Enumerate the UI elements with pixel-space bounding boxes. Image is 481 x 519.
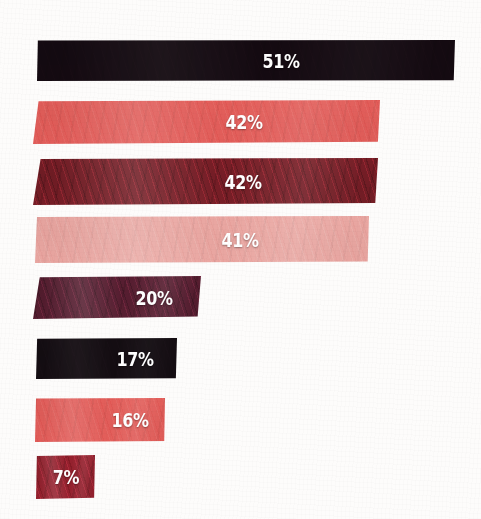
bar-value-label: 16% xyxy=(96,398,163,442)
bar-value-label: 41% xyxy=(206,216,273,263)
bar-20: 20% xyxy=(33,276,201,319)
bar-42: 42% xyxy=(33,100,380,144)
bar-sheen xyxy=(35,216,369,263)
bar-51: 51% xyxy=(37,40,455,81)
bar-value-label: 42% xyxy=(209,158,276,205)
bar-sheen xyxy=(37,40,455,81)
bar-value-label: 20% xyxy=(120,276,187,319)
bar-value-label: 51% xyxy=(247,40,314,81)
bar-fill xyxy=(35,216,369,263)
bar-fill xyxy=(37,40,455,81)
bar-chart: 51%42%42%41%20%17%16%7% xyxy=(0,0,481,519)
bar-7: 7% xyxy=(36,455,95,499)
bar-fill xyxy=(33,158,378,205)
bar-value-label: 7% xyxy=(32,455,99,499)
bar-sheen xyxy=(33,100,380,144)
bar-42: 42% xyxy=(33,158,378,205)
bar-17: 17% xyxy=(36,338,177,379)
bar-value-label: 17% xyxy=(101,338,168,379)
bar-16: 16% xyxy=(35,398,165,442)
bar-fill xyxy=(33,100,380,144)
bar-value-label: 42% xyxy=(210,100,277,144)
bar-41: 41% xyxy=(35,216,369,263)
bar-sheen xyxy=(33,158,378,205)
